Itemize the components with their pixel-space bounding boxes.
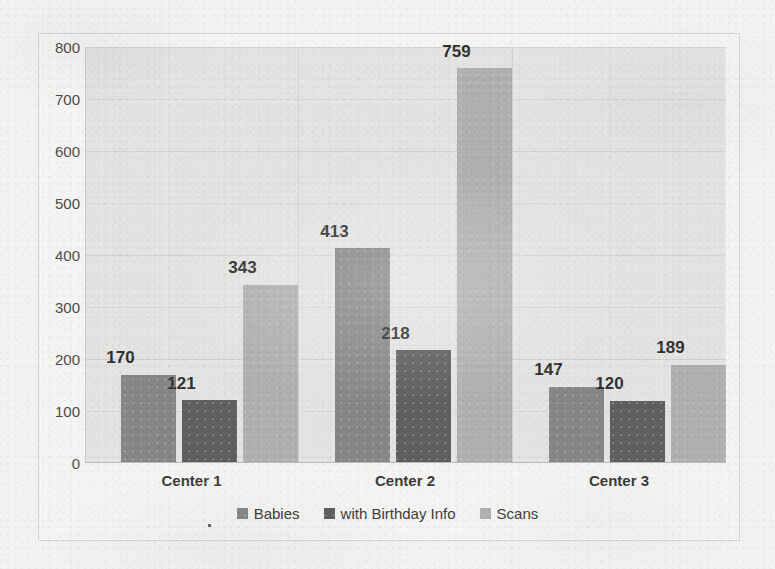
category-label-center-3: Center 3 — [512, 472, 726, 489]
bar-center2-scans[interactable] — [457, 68, 512, 463]
category-label-center-1: Center 1 — [85, 472, 298, 489]
gridline-600 — [85, 151, 726, 152]
bar-value-label-center1-babies: 170 — [93, 349, 148, 366]
y-tick-800: 800 — [40, 40, 80, 55]
category-label-center-2: Center 2 — [298, 472, 512, 489]
bar-center2-with-birthday-info[interactable] — [396, 350, 451, 463]
chart-legend: Babies with Birthday Info Scans — [0, 506, 775, 521]
legend-swatch-with-birthday-info-icon — [324, 508, 335, 519]
legend-swatch-babies-icon — [237, 508, 248, 519]
bar-value-label-center3-with-birthday-info: 120 — [582, 375, 637, 392]
bar-value-label-center2-babies: 413 — [307, 223, 362, 240]
y-tick-200: 200 — [40, 352, 80, 367]
bar-center1-scans[interactable] — [243, 285, 298, 463]
x-axis-line — [85, 462, 726, 463]
bar-value-label-center3-scans: 189 — [643, 339, 698, 356]
legend-stray-dot — [208, 524, 211, 527]
y-tick-0: 0 — [40, 456, 80, 471]
y-axis-line — [85, 47, 86, 463]
gridline-700 — [85, 99, 726, 100]
legend-item-scans[interactable]: Scans — [480, 506, 539, 521]
bar-center3-babies[interactable] — [549, 387, 604, 463]
y-tick-700: 700 — [40, 92, 80, 107]
y-axis-tick-labels: 800 700 600 500 400 300 200 100 0 — [38, 0, 80, 569]
legend-item-with-birthday-info[interactable]: with Birthday Info — [324, 506, 456, 521]
bar-center2-babies[interactable] — [335, 248, 390, 463]
gridline-400 — [85, 255, 726, 256]
y-tick-300: 300 — [40, 300, 80, 315]
y-tick-500: 500 — [40, 196, 80, 211]
y-tick-400: 400 — [40, 248, 80, 263]
bar-value-label-center3-babies: 147 — [521, 361, 576, 378]
gridline-500 — [85, 203, 726, 204]
legend-swatch-scans-icon — [480, 508, 491, 519]
y-tick-100: 100 — [40, 404, 80, 419]
plot-area — [85, 47, 726, 463]
bar-value-label-center2-with-birthday-info: 218 — [368, 325, 423, 342]
bar-value-label-center1-with-birthday-info: 121 — [154, 375, 209, 392]
bar-center1-with-birthday-info[interactable] — [182, 400, 237, 463]
legend-label-scans: Scans — [497, 506, 539, 521]
category-separator-1 — [298, 47, 299, 463]
gridline-800 — [85, 47, 726, 48]
bar-center3-with-birthday-info[interactable] — [610, 401, 665, 463]
legend-label-with-birthday-info: with Birthday Info — [341, 506, 456, 521]
gridline-300 — [85, 307, 726, 308]
bar-value-label-center1-scans: 343 — [215, 259, 270, 276]
legend-item-babies[interactable]: Babies — [237, 506, 300, 521]
legend-label-babies: Babies — [254, 506, 300, 521]
category-separator-2 — [512, 47, 513, 463]
bar-value-label-center2-scans: 759 — [429, 43, 484, 60]
y-tick-600: 600 — [40, 144, 80, 159]
bar-center3-scans[interactable] — [671, 365, 726, 463]
